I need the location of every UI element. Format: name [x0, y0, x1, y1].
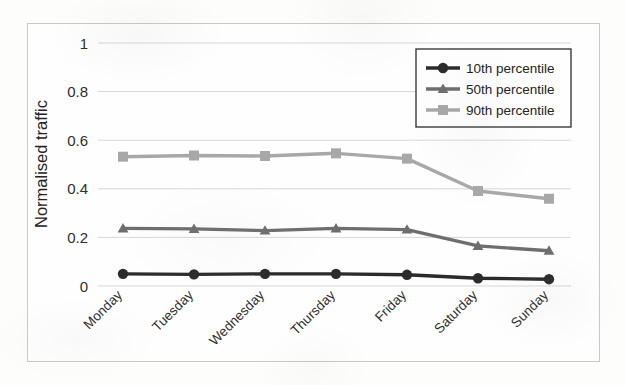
circle-marker-icon: [118, 269, 128, 279]
square-marker-icon: [544, 194, 554, 204]
series-10th-percentile: [118, 269, 554, 285]
series-90th-percentile: [118, 148, 554, 203]
y-tick-label: 0: [80, 278, 88, 295]
circle-marker-icon: [473, 273, 483, 283]
legend-label-90th: 90th percentile: [466, 103, 555, 118]
circle-marker-icon: [544, 274, 554, 284]
circle-marker-icon: [402, 270, 412, 280]
y-axis-title: Normalised traffic: [32, 100, 50, 228]
y-tick-label: 0.8: [67, 83, 88, 100]
y-tick-label: 0.6: [67, 132, 88, 149]
square-marker-icon: [118, 152, 128, 162]
x-axis-tick-labels: Monday Tuesday Wednesday Thursday Friday…: [81, 287, 552, 348]
circle-marker-icon: [438, 63, 448, 73]
square-marker-icon: [402, 154, 412, 164]
y-tick-label: 1: [80, 35, 88, 52]
x-tick-label: Friday: [372, 287, 409, 324]
legend-label-10th: 10th percentile: [466, 61, 555, 76]
square-marker-icon: [331, 148, 341, 158]
legend-label-50th: 50th percentile: [466, 82, 555, 97]
x-tick-label: Tuesday: [149, 287, 196, 334]
y-tick-label: 0.2: [67, 229, 88, 246]
y-tick-label: 0.4: [67, 180, 88, 197]
circle-marker-icon: [260, 269, 270, 279]
square-marker-icon: [438, 105, 448, 115]
square-marker-icon: [473, 186, 483, 196]
series-line: [123, 153, 549, 198]
line-chart: 1 0.8 0.6 0.4 0.2 0 Normalised traffic M…: [28, 24, 599, 361]
x-tick-label: Thursday: [288, 287, 339, 338]
x-tick-label: Wednesday: [206, 287, 267, 348]
circle-marker-icon: [331, 269, 341, 279]
x-tick-label: Sunday: [508, 287, 551, 330]
data-series-layer: [118, 148, 555, 284]
square-marker-icon: [189, 151, 199, 161]
chart-legend: 10th percentile 50th percentile 90th per…: [416, 49, 571, 127]
series-50th-percentile: [118, 223, 555, 255]
y-axis-tick-labels: 1 0.8 0.6 0.4 0.2 0: [67, 35, 88, 295]
x-tick-label: Saturday: [431, 287, 480, 336]
circle-marker-icon: [189, 269, 199, 279]
chart-figure: 1 0.8 0.6 0.4 0.2 0 Normalised traffic M…: [27, 23, 600, 362]
square-marker-icon: [260, 151, 270, 161]
